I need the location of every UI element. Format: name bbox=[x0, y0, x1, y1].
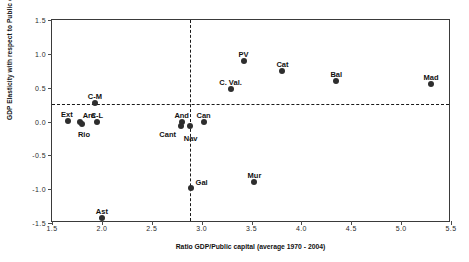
data-point-label: Cant bbox=[159, 130, 176, 139]
data-point-label: Nav bbox=[184, 134, 198, 143]
data-point-label: C-M bbox=[88, 92, 102, 101]
y-tick-mark bbox=[48, 155, 52, 156]
data-point-label: C-L bbox=[91, 111, 104, 120]
x-tick-label: 1.5 bbox=[47, 225, 58, 232]
y-tick-label: 0.0 bbox=[35, 118, 46, 125]
x-tick-label: 4.0 bbox=[296, 225, 307, 232]
x-axis-title: Ratio GDP/Public capital (average 1970 -… bbox=[51, 243, 450, 250]
data-point[interactable] bbox=[187, 123, 193, 129]
data-point-label: Ast bbox=[96, 207, 108, 216]
y-tick-label: 0.5 bbox=[35, 84, 46, 91]
data-point-label: Mad bbox=[424, 73, 439, 82]
x-tick-label: 5.0 bbox=[396, 225, 407, 232]
y-tick-mark bbox=[48, 189, 52, 190]
data-point-label: Bal bbox=[330, 70, 342, 79]
data-point-label: Cat bbox=[276, 60, 288, 69]
y-tick-label: -1.5 bbox=[32, 220, 46, 227]
data-point-label: Can bbox=[197, 111, 211, 120]
data-point-label: PV bbox=[239, 50, 249, 59]
y-tick-label: -0.5 bbox=[32, 152, 46, 159]
y-tick-mark bbox=[48, 20, 52, 21]
data-point-label: Rio bbox=[78, 130, 90, 139]
y-axis-title: GDP Elasticity with respect to Public ca… bbox=[6, 0, 13, 120]
y-tick-mark bbox=[48, 122, 52, 123]
data-point-label: Ext bbox=[61, 110, 73, 119]
x-tick-label: 2.5 bbox=[146, 225, 157, 232]
data-point-label: And bbox=[174, 111, 189, 120]
plot-area: 1.51.00.50.0-0.5-1.0-1.5 1.52.02.53.03.5… bbox=[51, 19, 450, 222]
data-point[interactable] bbox=[79, 121, 85, 127]
y-tick-mark bbox=[48, 54, 52, 55]
data-point[interactable] bbox=[188, 185, 194, 191]
y-tick-label: -1.0 bbox=[32, 186, 46, 193]
x-tick-label: 5.5 bbox=[446, 225, 457, 232]
x-tick-label: 3.0 bbox=[196, 225, 207, 232]
scatter-chart-figure: GDP Elasticity with respect to Public ca… bbox=[0, 0, 469, 262]
x-tick-label: 2.0 bbox=[96, 225, 107, 232]
x-tick-label: 3.5 bbox=[246, 225, 257, 232]
y-tick-mark bbox=[48, 88, 52, 89]
y-tick-label: 1.0 bbox=[35, 50, 46, 57]
x-tick-label: 4.5 bbox=[346, 225, 357, 232]
data-point-label: Gal bbox=[196, 178, 208, 187]
data-point-label: C. Val. bbox=[219, 78, 242, 87]
data-point-label: Mur bbox=[248, 171, 262, 180]
y-tick-label: 1.5 bbox=[35, 17, 46, 24]
horizontal-reference-line bbox=[52, 104, 449, 105]
data-point[interactable] bbox=[178, 123, 184, 129]
